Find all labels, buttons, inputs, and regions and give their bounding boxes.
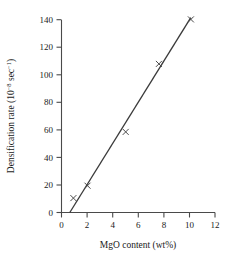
y-tick-label: 100: [40, 70, 54, 80]
y-axis-title-main: Densification rate (10: [6, 90, 17, 173]
x-tick-label: 10: [185, 220, 195, 230]
y-tick-label: 20: [44, 180, 54, 190]
y-tick-label: 40: [44, 153, 54, 163]
y-axis-title-exponent-1: −8: [5, 83, 12, 90]
y-axis-title-mid: sec: [6, 69, 16, 84]
y-tick-label: 80: [44, 97, 54, 107]
chart-figure: 0 20 40 60 80 100 120 140 0 2 4 6 8 10: [0, 0, 234, 262]
y-axis-title-exponent-2: −1: [5, 62, 12, 69]
x-tick-label: 12: [211, 220, 220, 230]
x-tick-label: 2: [85, 220, 90, 230]
y-tick-label: 60: [44, 125, 54, 135]
scatter-plot: 0 20 40 60 80 100 120 140 0 2 4 6 8 10: [0, 0, 234, 262]
x-tick-label: 8: [162, 220, 167, 230]
y-tick-label: 120: [40, 42, 54, 52]
x-tick-label: 0: [59, 220, 64, 230]
chart-background: [0, 0, 234, 262]
x-tick-label: 6: [136, 220, 141, 230]
y-axis-title: Densification rate (10−8 sec−1): [5, 59, 17, 173]
y-axis-title-tail: ): [6, 59, 17, 62]
y-tick-label: 140: [40, 15, 54, 25]
x-tick-label: 4: [110, 220, 115, 230]
x-axis-title: MgO content (wt%): [100, 240, 177, 251]
y-tick-label: 0: [49, 208, 54, 218]
